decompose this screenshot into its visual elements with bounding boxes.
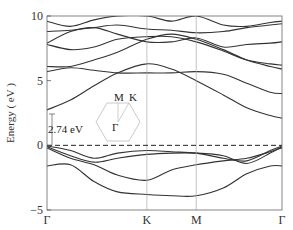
y-tick-label: −5 — [30, 203, 43, 217]
plot-frame — [47, 16, 282, 210]
band-conduction-7 — [47, 15, 282, 26]
band-gap-annotation: 2.74 eV — [48, 114, 83, 145]
inset-label-k: K — [129, 91, 137, 103]
y-tick-label: 0 — [37, 138, 43, 152]
inset-label-m: M — [114, 91, 124, 103]
x-tick-label: M — [191, 213, 202, 227]
axes: −50510ΓKMΓ — [30, 9, 285, 227]
band-conduction-2 — [47, 68, 282, 94]
band-lines — [47, 15, 282, 196]
y-axis-label: Energy ( eV ) — [4, 83, 17, 143]
inset-label-gamma: Γ — [112, 121, 118, 133]
band-conduction-1 — [47, 64, 282, 118]
band-structure-chart: −50510ΓKMΓ Energy ( eV ) M K Γ 2.74 eV — [0, 0, 293, 230]
brillouin-zone-inset: M K Γ — [96, 91, 140, 141]
band-valence-4 — [47, 164, 282, 197]
y-tick-label: 5 — [37, 74, 43, 88]
x-tick-label: Γ — [279, 213, 286, 227]
band-conduction-5 — [47, 28, 282, 48]
x-tick-label: Γ — [44, 213, 51, 227]
band-gap-label: 2.74 eV — [48, 123, 83, 135]
band-conduction-4 — [47, 36, 282, 65]
y-tick-label: 10 — [31, 9, 43, 23]
x-tick-label: K — [143, 213, 152, 227]
band-conduction-3 — [47, 34, 282, 69]
